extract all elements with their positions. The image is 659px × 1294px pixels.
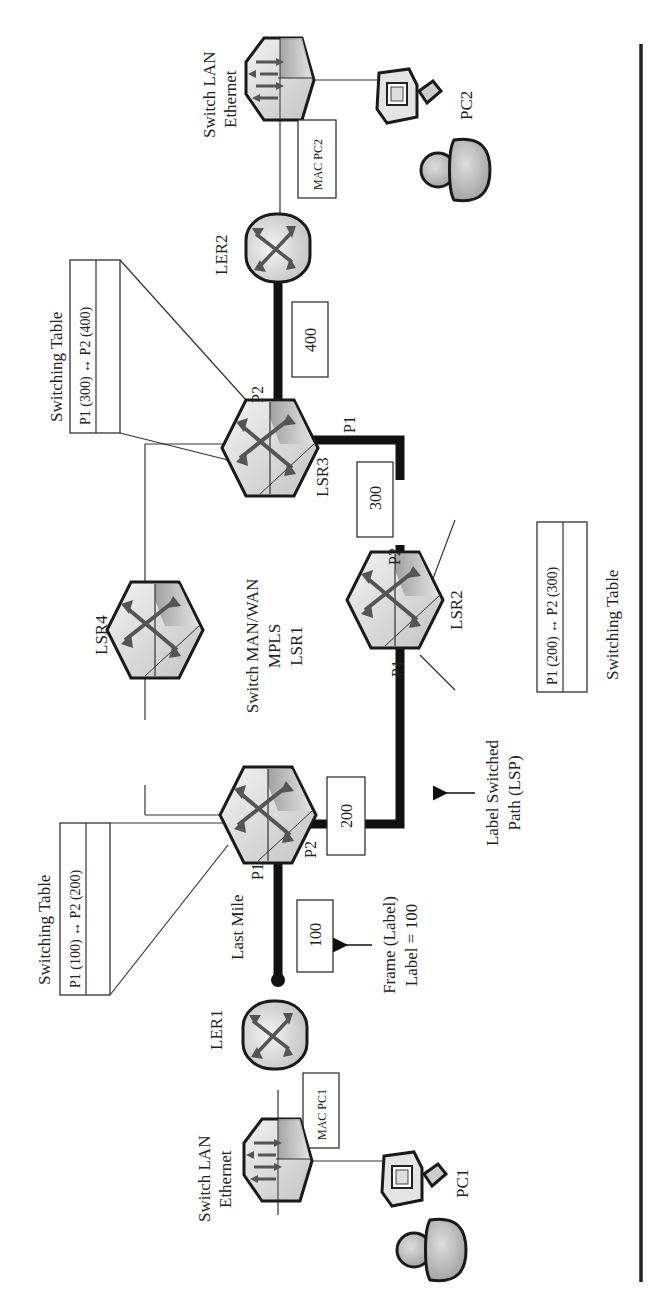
switch-lan-2-label: Switch LAN xyxy=(200,52,219,138)
lsr2-port-p2: P2 xyxy=(386,548,403,565)
lsr4-label: LSR4 xyxy=(92,615,111,655)
mac-pc2-label: MAC PC2 xyxy=(311,139,325,190)
switching-table-title: Switching Table xyxy=(603,570,622,680)
lsr4-icon xyxy=(107,582,203,678)
lsp-label-line2: Path (LSP) xyxy=(505,755,524,830)
frame-label-line1: Frame (Label) xyxy=(380,896,399,994)
mpls-network-diagram: P1 (300) ↔ P2 (400) Switching Table P1 (… xyxy=(0,0,659,1294)
switch-lan-2-label-2: Ethernet xyxy=(221,70,240,128)
switching-table-entry: P1 (300) ↔ P2 (400) xyxy=(78,306,94,425)
pc1-label: PC1 xyxy=(453,1169,472,1198)
lsr1-port-p2: P2 xyxy=(302,841,319,858)
label-200: 200 xyxy=(338,804,355,828)
label-400: 400 xyxy=(302,328,319,352)
lsr3-port-p2: P2 xyxy=(249,386,266,403)
pc1-icon xyxy=(382,1152,446,1206)
switching-table-title: Switching Table xyxy=(35,875,54,985)
mac-pc1-label: MAC PC1 xyxy=(315,1089,329,1140)
lsr2-label: LSR2 xyxy=(447,590,466,630)
lsr1-label-line1: Switch MAN/WAN xyxy=(243,579,262,714)
user-pc1-icon xyxy=(397,1219,466,1280)
ler1-label: LER1 xyxy=(207,1009,226,1050)
pc2-label: PC2 xyxy=(457,91,476,120)
switch-lan-1-label: Switch LAN xyxy=(195,1136,214,1222)
switch-lan-1-label-2: Ethernet xyxy=(216,1150,235,1208)
ler2-label: LER2 xyxy=(212,234,231,275)
lsr3-label: LSR3 xyxy=(313,457,332,497)
switch-lan-2-icon xyxy=(246,38,314,120)
switching-table-lsr1: P1 (100) ↔ P2 (200) Switching Table xyxy=(35,823,110,995)
ler2-icon xyxy=(246,214,310,282)
lsr2-icon xyxy=(347,552,443,648)
lsr3-icon xyxy=(222,400,318,496)
frame-label-line2: Label = 100 xyxy=(402,904,421,986)
pc2-icon xyxy=(377,69,441,123)
lsr1-label-line3: LSR1 xyxy=(287,626,306,666)
switching-table-lsr2: P1 (200) ↔ P2 (300) Switching Table xyxy=(537,522,622,692)
ler1-icon xyxy=(243,1001,307,1069)
switching-table-lsr3: P1 (300) ↔ P2 (400) Switching Table xyxy=(47,260,120,433)
lsp-label-line1: Label Switched xyxy=(483,739,502,846)
user-pc2-icon xyxy=(421,139,490,200)
last-mile-label: Last Mile xyxy=(228,894,247,960)
lsr2-port-p1: P1 xyxy=(389,660,406,677)
lsr1-port-p1: P1 xyxy=(249,863,266,880)
lsr1-label-line2: MPLS xyxy=(265,624,284,668)
switching-table-title: Switching Table xyxy=(47,312,66,422)
label-100: 100 xyxy=(307,923,324,947)
label-300: 300 xyxy=(367,486,384,510)
switching-table-entry: P1 (100) ↔ P2 (200) xyxy=(68,869,84,988)
switch-lan-1-icon xyxy=(244,1119,312,1201)
switching-table-entry: P1 (200) ↔ P2 (300) xyxy=(545,566,561,685)
lsr3-port-p1: P1 xyxy=(341,416,358,433)
